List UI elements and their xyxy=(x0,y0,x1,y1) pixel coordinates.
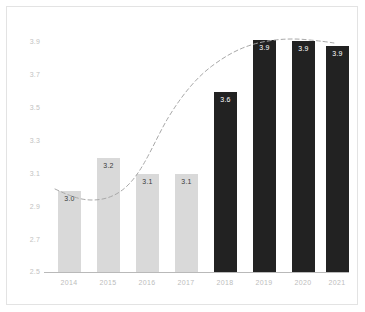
bar-value-label: 3.2 xyxy=(97,162,120,170)
bar-value-label: 3.9 xyxy=(292,45,315,53)
bar-value-label: 3.0 xyxy=(58,195,81,203)
x-axis-tick-label-2019: 2019 xyxy=(244,278,284,287)
bar-2014[interactable]: 3.0 xyxy=(58,191,81,272)
bar-value-label: 3.1 xyxy=(136,178,159,186)
x-axis-tick-label-2017: 2017 xyxy=(166,278,206,287)
bar-2015[interactable]: 3.2 xyxy=(97,158,120,272)
bars-layer: 3.0 3.2 3.1 3.1 3.6 3.9 3.9 3.9 xyxy=(0,0,365,312)
x-axis-tick-label-2014: 2014 xyxy=(49,278,89,287)
chart-container: 3.9 3.7 3.5 3.3 3.1 2.9 2.7 2.5 3.0 3.2 … xyxy=(0,0,365,312)
bar-2018[interactable]: 3.6 xyxy=(214,92,237,272)
bar-value-label: 3.6 xyxy=(214,96,237,104)
x-axis-tick-label-2021: 2021 xyxy=(317,278,357,287)
bar-2019[interactable]: 3.9 xyxy=(253,40,276,272)
bar-2016[interactable]: 3.1 xyxy=(136,174,159,272)
x-axis-tick-label-2016: 2016 xyxy=(127,278,167,287)
bar-2020[interactable]: 3.9 xyxy=(292,41,315,272)
bar-value-label: 3.9 xyxy=(253,44,276,52)
x-axis-tick-label-2015: 2015 xyxy=(88,278,128,287)
x-axis-tick-label-2018: 2018 xyxy=(205,278,245,287)
bar-2021[interactable]: 3.9 xyxy=(326,46,349,272)
bar-value-label: 3.9 xyxy=(326,50,349,58)
bar-2017[interactable]: 3.1 xyxy=(175,174,198,272)
bar-value-label: 3.1 xyxy=(175,178,198,186)
